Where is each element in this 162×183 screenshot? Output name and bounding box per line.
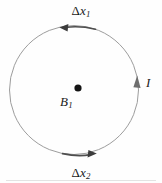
magnetic-field-variable: B bbox=[60, 94, 68, 109]
scan-artifact-line bbox=[6, 180, 156, 181]
circular-current-loop-figure: Δx1 Δx2 B1 I bbox=[0, 0, 162, 183]
magnetic-field-subscript: 1 bbox=[68, 100, 72, 110]
magnetic-field-label: B1 bbox=[60, 95, 73, 110]
delta-symbol-2: Δ bbox=[72, 165, 80, 180]
delta-x1-variable: x bbox=[80, 3, 86, 18]
delta-x1-subscript: 1 bbox=[86, 9, 90, 19]
delta-symbol-1: Δ bbox=[72, 3, 80, 18]
current-label: I bbox=[146, 76, 150, 89]
current-loop-circle bbox=[10, 26, 139, 155]
delta-x1-label: Δx1 bbox=[0, 4, 162, 19]
delta-x1-arrow-shaft bbox=[66, 27, 96, 29]
delta-x1-arrow-head bbox=[59, 24, 68, 31]
current-direction-arrow-head bbox=[133, 76, 140, 89]
current-direction-arrow bbox=[133, 76, 140, 89]
current-variable: I bbox=[146, 75, 150, 90]
magnetic-field-point-dot bbox=[74, 84, 81, 91]
loop-diagram-svg bbox=[0, 0, 162, 183]
delta-x2-variable: x bbox=[80, 165, 86, 180]
